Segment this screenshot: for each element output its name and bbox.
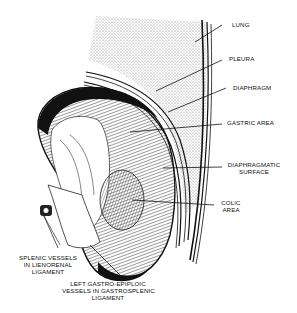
label-lung: LUNG: [232, 21, 250, 28]
label-gastric-area: GASTRIC AREA: [227, 119, 274, 126]
spleen-diagram: LUNG PLEURA DIAPHRAGM GASTRIC AREA DIAPH…: [0, 0, 297, 313]
label-pleura: PLEURA: [229, 55, 254, 62]
label-splenic-vessels: SPLENIC VESSELS IN LIENORENAL LIGAMENT: [16, 254, 80, 275]
label-diaphragm: DIAPHRAGM: [233, 84, 271, 91]
label-colic-area: COLIC AREA: [218, 199, 244, 213]
label-diaphragmatic-surface: DIAPHRAGMATIC SURFACE: [224, 161, 284, 175]
label-left-gastro-epiploic: LEFT GASTRO-EPIPLOIC VESSELS IN GASTROSP…: [62, 280, 154, 301]
